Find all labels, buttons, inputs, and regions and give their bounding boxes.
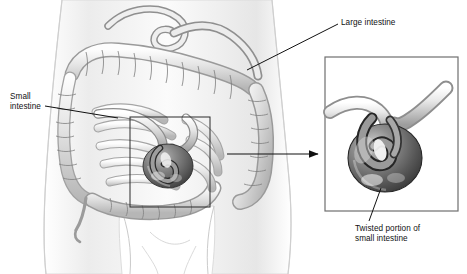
label-large-intestine: Large intestine [341,18,395,28]
label-small-intestine: Small intestine [10,92,41,111]
twisted-loop-main [143,144,193,188]
anatomical-illustration: Large intestine Small intestine Twisted … [0,0,467,274]
label-twisted-portion: Twisted portion of small intestine [355,224,420,243]
